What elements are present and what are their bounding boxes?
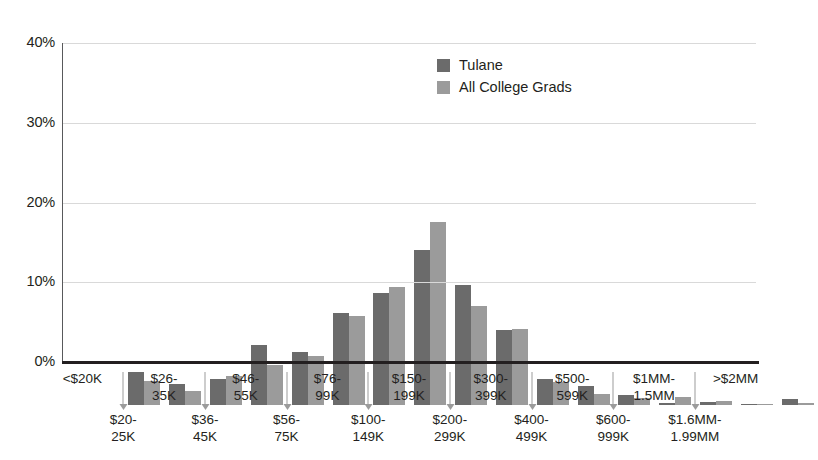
bar-groups-container [124, 86, 818, 405]
bar-group [451, 86, 492, 405]
y-tick-label: 0% [7, 353, 55, 369]
gridline-20 [62, 203, 756, 204]
bar-group [696, 86, 737, 405]
down-arrow-icon [609, 372, 618, 414]
gridline-30 [62, 123, 756, 124]
bar-group [287, 86, 328, 405]
bar[interactable] [782, 399, 798, 405]
bar-group [573, 86, 614, 405]
legend-label-all-college-grads: All College Grads [459, 79, 572, 95]
down-arrow-icon [445, 372, 454, 414]
x-axis-line [62, 361, 759, 364]
gridline-40 [62, 43, 756, 44]
bar-group [491, 86, 532, 405]
down-arrow-icon [200, 372, 209, 414]
bar-group [206, 86, 247, 405]
legend-item-tulane: Tulane [437, 54, 572, 76]
y-tick-label: 30% [7, 114, 55, 130]
gridline-10 [62, 282, 756, 283]
plot-area [62, 43, 756, 362]
legend-item-all-college-grads: All College Grads [437, 76, 572, 98]
bar-group [246, 86, 287, 405]
down-arrow-icon [364, 372, 373, 414]
bar-group [124, 86, 165, 405]
legend-swatch-icon-all-college-grads [437, 81, 450, 94]
x-axis-label-cell: >$2MM [715, 366, 756, 460]
bar-group [410, 86, 451, 405]
bar-group [614, 86, 655, 405]
bar[interactable] [798, 403, 814, 405]
chart-legend: Tulane All College Grads [437, 54, 572, 98]
legend-label-tulane: Tulane [459, 57, 503, 73]
bar-group [369, 86, 410, 405]
bar-group [532, 86, 573, 405]
x-axis-labels: <$20K$20- 25K$26- 35K$36- 45K$46- 55K$56… [62, 366, 756, 460]
x-axis-label: >$2MM [701, 370, 770, 387]
legend-swatch-icon-tulane [437, 59, 450, 72]
down-arrow-icon [527, 372, 536, 414]
down-arrow-icon [690, 372, 699, 414]
bar-group [736, 86, 777, 405]
down-arrow-icon [119, 372, 128, 414]
bar-group [777, 86, 818, 405]
bar-group [655, 86, 696, 405]
y-tick-label: 10% [7, 273, 55, 289]
y-axis-line [62, 43, 63, 363]
down-arrow-icon [282, 372, 291, 414]
bar[interactable] [757, 404, 773, 405]
bar-group [328, 86, 369, 405]
y-tick-label: 20% [7, 194, 55, 210]
bar-group [165, 86, 206, 405]
y-tick-label: 40% [7, 34, 55, 50]
